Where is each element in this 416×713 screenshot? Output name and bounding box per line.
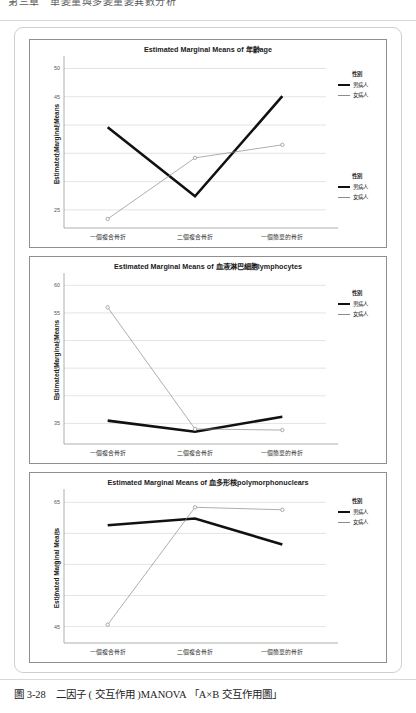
plot-area xyxy=(30,473,388,664)
y-tick-label: 55 xyxy=(38,561,60,567)
x-tick-label: 二個複合骨折 xyxy=(177,448,213,457)
data-point xyxy=(281,508,284,511)
chart-legend: 性別男病人女病人 xyxy=(338,70,368,101)
y-tick-label: 50 xyxy=(38,338,60,344)
footer-divider xyxy=(0,679,416,680)
y-tick-label: 65 xyxy=(38,499,60,505)
y-tick-label: 25 xyxy=(38,207,60,213)
header-divider xyxy=(0,20,416,21)
y-tick-label: 60 xyxy=(38,530,60,536)
y-tick-label: 35 xyxy=(38,420,60,426)
x-tick-label: 一個簡單的骨折 xyxy=(261,232,303,241)
plot-area xyxy=(30,257,388,465)
legend-item-label: 男病人 xyxy=(353,508,368,516)
y-tick-label: 50 xyxy=(38,593,60,599)
legend-item[interactable]: 男病人 xyxy=(338,81,368,89)
chart-legend: 性別男病人女病人 xyxy=(338,289,368,320)
legend-swatch-icon xyxy=(338,314,350,315)
legend-swatch-icon xyxy=(338,511,350,513)
legend-swatch-icon xyxy=(338,522,350,523)
y-tick-label: 40 xyxy=(38,122,60,128)
legend-swatch-icon xyxy=(338,84,350,86)
running-header-strip: 第三章 單變量與多變量變異數分析 xyxy=(0,0,416,14)
plot-area xyxy=(30,40,388,249)
data-point xyxy=(106,623,109,626)
legend-item[interactable]: 女病人 xyxy=(338,193,368,201)
data-point xyxy=(106,306,109,309)
legend-swatch-icon xyxy=(338,197,350,198)
legend-item[interactable]: 女病人 xyxy=(338,518,368,526)
series-line-0 xyxy=(108,518,283,544)
legend-swatch-icon xyxy=(338,303,350,305)
y-tick-label: 45 xyxy=(38,624,60,630)
x-tick-label: 一個簡單的骨折 xyxy=(261,647,303,656)
legend-item-label: 女病人 xyxy=(353,310,368,318)
legend-item-label: 男病人 xyxy=(353,183,368,191)
data-point xyxy=(281,143,284,146)
y-tick-label: 40 xyxy=(38,393,60,399)
chart-panel-age: Estimated Marginal Means of 年齡ageEstimat… xyxy=(29,39,387,248)
x-tick-label: 一個複合骨折 xyxy=(90,232,126,241)
series-line-1 xyxy=(108,307,283,430)
x-tick-label: 一個簡單的骨折 xyxy=(261,448,303,457)
legend-item-label: 女病人 xyxy=(353,518,368,526)
chart-panel-lymphocytes: Estimated Marginal Means of 血液淋巴細胞lympho… xyxy=(29,256,387,464)
legend-item-label: 女病人 xyxy=(353,91,368,99)
data-point xyxy=(106,217,109,220)
data-point xyxy=(193,156,196,159)
legend-title: 性別 xyxy=(352,172,368,180)
legend-item[interactable]: 男病人 xyxy=(338,300,368,308)
data-point xyxy=(193,427,196,430)
chart-panel-polymorphonuclears: Estimated Marginal Means of 血多形核polymorp… xyxy=(29,472,387,663)
y-tick-label: 45 xyxy=(38,365,60,371)
y-tick-label: 50 xyxy=(38,65,60,71)
x-tick-label: 一個複合骨折 xyxy=(90,647,126,656)
legend-swatch-icon xyxy=(338,95,350,96)
legend-item-label: 女病人 xyxy=(353,193,368,201)
x-tick-label: 二個複合骨折 xyxy=(177,647,213,656)
x-tick-label: 一個複合骨折 xyxy=(90,448,126,457)
chart-legend: 性別男病人女病人 xyxy=(338,497,368,528)
legend-item-label: 男病人 xyxy=(353,300,368,308)
x-tick-label: 二個複合骨折 xyxy=(177,232,213,241)
legend-title: 性別 xyxy=(352,289,368,297)
legend-title: 性別 xyxy=(352,497,368,505)
legend-item[interactable]: 女病人 xyxy=(338,91,368,99)
legend-swatch-icon xyxy=(338,186,350,188)
legend-title: 性別 xyxy=(352,70,368,78)
figure-caption: 圖 3-28 二因子 ( 交互作用 )MANOVA 「A×B 交互作用圖」 xyxy=(14,686,282,701)
y-tick-label: 30 xyxy=(38,179,60,185)
legend-item[interactable]: 男病人 xyxy=(338,508,368,516)
legend-item-label: 男病人 xyxy=(353,81,368,89)
series-line-1 xyxy=(108,507,283,624)
legend-item[interactable]: 男病人 xyxy=(338,183,368,191)
chart-legend: 性別男病人女病人 xyxy=(338,172,368,203)
y-tick-label: 35 xyxy=(38,150,60,156)
data-point xyxy=(193,506,196,509)
legend-item[interactable]: 女病人 xyxy=(338,310,368,318)
y-tick-label: 55 xyxy=(38,310,60,316)
figure-container: Estimated Marginal Means of 年齡ageEstimat… xyxy=(14,27,402,673)
data-point xyxy=(281,428,284,431)
y-tick-label: 45 xyxy=(38,94,60,100)
y-tick-label: 60 xyxy=(38,282,60,288)
running-header-text: 第三章 單變量與多變量變異數分析 xyxy=(8,0,176,8)
